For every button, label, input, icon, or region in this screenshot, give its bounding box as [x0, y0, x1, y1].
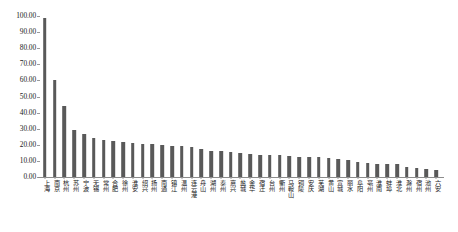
x-axis-tick-label: 扬州: [148, 180, 157, 192]
bar: [248, 154, 252, 177]
y-axis-tick-label: 10.00: [0, 157, 36, 165]
y-axis-tick-label: 30.00: [0, 125, 36, 133]
y-axis: 0.0010.0020.0030.0040.0050.0060.0070.008…: [0, 0, 40, 232]
bar-slot: [89, 16, 99, 177]
x-axis-tick-label: 马鞍山: [285, 180, 294, 198]
x-axis-tick-mark: [377, 177, 378, 179]
bar-slot: [50, 16, 60, 177]
x-axis-tick-label: 宿迁: [256, 180, 265, 192]
bar-slot: [265, 16, 275, 177]
x-axis-tick-mark: [103, 177, 104, 179]
x-axis-tick-label: 亳州: [363, 180, 372, 192]
bar-slot: [69, 16, 79, 177]
x-axis-tick-label: 徐州: [119, 180, 128, 192]
x-axis-tick-label: 温州: [177, 180, 186, 192]
y-axis-tick-label: 0.00: [0, 173, 36, 181]
x-axis-tick-mark: [308, 177, 309, 179]
bar-slot: [60, 16, 70, 177]
bar: [395, 164, 399, 177]
x-axis-tick-mark: [113, 177, 114, 179]
x-axis-tick-label: 舟山: [197, 180, 206, 192]
x-axis-tick-label: 黄山: [324, 180, 333, 192]
bar: [219, 151, 223, 177]
bar: [434, 170, 438, 177]
x-axis-tick-label: 台州: [265, 180, 274, 192]
bar-slot: [275, 16, 285, 177]
bar-slot: [226, 16, 236, 177]
bar-slot: [118, 16, 128, 177]
bar-slot: [402, 16, 412, 177]
bar: [425, 169, 429, 177]
bar: [131, 143, 135, 177]
x-axis-tick-label: 无锡: [89, 180, 98, 192]
bar: [72, 130, 76, 177]
x-axis-tick-mark: [250, 177, 251, 179]
x-axis-tick-mark: [436, 177, 437, 179]
x-axis-tick-label: 池州: [422, 180, 431, 192]
x-axis-tick-label: 常州: [99, 180, 108, 192]
bar: [307, 157, 311, 177]
x-axis-tick-label: 铜陵: [295, 180, 304, 192]
bar: [200, 149, 204, 177]
x-axis-tick-mark: [338, 177, 339, 179]
x-axis-tick-label: 淮安: [128, 180, 137, 192]
x-axis-tick-mark: [191, 177, 192, 179]
x-axis-tick-mark: [172, 177, 173, 179]
bar-slot: [40, 16, 50, 177]
x-axis-tick-mark: [83, 177, 84, 179]
x-axis-tick-label: 盐城: [236, 180, 245, 192]
bar: [151, 144, 155, 177]
x-axis-tick-mark: [279, 177, 280, 179]
bar-slot: [236, 16, 246, 177]
bar-slot: [79, 16, 89, 177]
bar-slot: [324, 16, 334, 177]
x-axis-tick-mark: [152, 177, 153, 179]
x-axis-tick-label: 芜湖: [314, 180, 323, 192]
bar: [160, 145, 164, 177]
x-axis-tick-mark: [299, 177, 300, 179]
bar: [43, 18, 47, 177]
y-axis-tick-label: 100.00: [0, 12, 36, 20]
x-axis-tick-label: 衢州: [275, 180, 284, 192]
bar-slot: [245, 16, 255, 177]
x-axis-tick-label: 宁波: [80, 180, 89, 192]
bar-slot: [255, 16, 265, 177]
x-axis-tick-mark: [328, 177, 329, 179]
bar: [346, 160, 350, 177]
x-axis-tick-label: 合肥: [109, 180, 118, 192]
x-axis-tick-label: 蚌埠: [383, 180, 392, 192]
x-axis-tick-label: 阜阳: [353, 180, 362, 192]
bar-slot: [412, 16, 422, 177]
bar-slot: [333, 16, 343, 177]
x-axis-tick-mark: [357, 177, 358, 179]
bar: [356, 162, 360, 177]
x-axis-tick-label: 苏州: [70, 180, 79, 192]
x-axis-tick-mark: [416, 177, 417, 179]
x-axis-tick-mark: [54, 177, 55, 179]
bar-slot: [392, 16, 402, 177]
bar-slot: [177, 16, 187, 177]
bar: [288, 156, 292, 177]
x-axis-tick-mark: [142, 177, 143, 179]
bar: [297, 157, 301, 177]
bar-slot: [138, 16, 148, 177]
bar: [190, 147, 194, 177]
x-axis-tick-mark: [318, 177, 319, 179]
x-axis-tick-label: 安庆: [304, 180, 313, 192]
x-axis-tick-label: 镇江: [168, 180, 177, 192]
bar-slot: [353, 16, 363, 177]
x-axis-tick-mark: [387, 177, 388, 179]
x-axis-tick-label: 南通: [158, 180, 167, 192]
bar-slot: [187, 16, 197, 177]
bar: [141, 144, 145, 177]
bar: [268, 155, 272, 177]
bar-slot: [314, 16, 324, 177]
bar: [209, 151, 213, 177]
bar: [366, 163, 370, 177]
y-axis-tick-label: 90.00: [0, 28, 36, 36]
y-axis-tick-label: 50.00: [0, 93, 36, 101]
bar-slot: [99, 16, 109, 177]
bar: [121, 142, 125, 177]
bar: [327, 158, 331, 177]
x-axis-tick-mark: [93, 177, 94, 179]
